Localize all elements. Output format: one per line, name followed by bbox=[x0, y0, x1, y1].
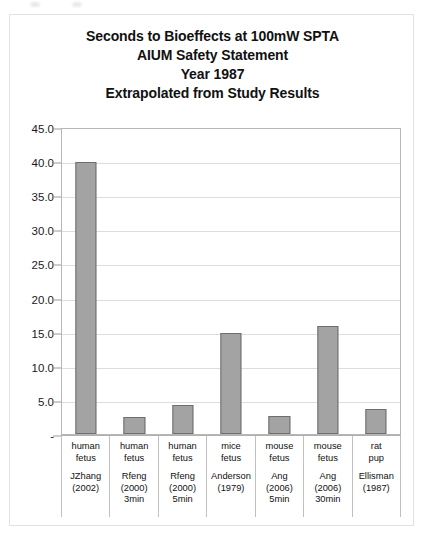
y-axis-tick-label: 5.0 bbox=[38, 396, 54, 408]
y-axis-tick-label: 35.0 bbox=[32, 191, 54, 203]
y-axis-tick-label: 10.0 bbox=[32, 362, 54, 374]
y-axis-tick-mark bbox=[53, 197, 61, 198]
y-axis-tick-mark bbox=[53, 401, 61, 402]
bar-slot bbox=[352, 129, 400, 434]
chart-container: Seconds to Bioeffects at 100mW SPTA AIUM… bbox=[9, 14, 414, 526]
x-axis-category-cell: mice fetusAnderson (1979) bbox=[207, 436, 255, 517]
category-source: Ang (2006) 5min bbox=[256, 471, 303, 506]
chart-title-line-2: AIUM Safety Statement bbox=[10, 46, 415, 65]
category-name: mouse fetus bbox=[304, 441, 351, 464]
x-axis-category-table: human fetusJZhang (2002)human fetusRfeng… bbox=[61, 435, 401, 517]
category-source: Rfeng (2000) 5min bbox=[159, 471, 206, 506]
category-name: human fetus bbox=[110, 441, 157, 464]
x-axis-category-cell: rat pupEllisman (1987) bbox=[353, 436, 401, 517]
y-axis-tick-label: 20.0 bbox=[32, 294, 54, 306]
bar-slot bbox=[303, 129, 351, 434]
chart-title: Seconds to Bioeffects at 100mW SPTA AIUM… bbox=[10, 27, 415, 103]
x-axis-category-cell: human fetusRfeng (2000) 5min bbox=[159, 436, 207, 517]
y-axis-tick-mark bbox=[53, 367, 61, 368]
category-source: Anderson (1979) bbox=[207, 471, 254, 494]
y-axis-tick-mark bbox=[53, 436, 61, 437]
y-axis-tick-label: 15.0 bbox=[32, 328, 54, 340]
y-axis-tick-mark bbox=[53, 265, 61, 266]
x-axis-category-cell: mouse fetusAng (2006) 5min bbox=[256, 436, 304, 517]
bar-slot bbox=[159, 129, 207, 434]
bar-slot bbox=[207, 129, 255, 434]
category-source: Rfeng (2000) 3min bbox=[110, 471, 157, 506]
category-source: JZhang (2002) bbox=[62, 471, 109, 494]
y-axis-tick-mark bbox=[53, 231, 61, 232]
category-name: mouse fetus bbox=[256, 441, 303, 464]
y-axis: 45.040.035.030.025.020.015.010.05.0- bbox=[10, 128, 57, 437]
x-axis-category-cell: human fetusJZhang (2002) bbox=[61, 436, 110, 517]
category-name: rat pup bbox=[353, 441, 400, 464]
y-axis-tick-label: 40.0 bbox=[32, 157, 54, 169]
bar[interactable] bbox=[124, 417, 145, 434]
bar-series bbox=[62, 129, 400, 434]
bar-slot bbox=[62, 129, 110, 434]
bar-slot bbox=[110, 129, 158, 434]
bar[interactable] bbox=[365, 409, 386, 434]
y-axis-tick-mark bbox=[53, 333, 61, 334]
x-axis-category-cell: human fetusRfeng (2000) 3min bbox=[110, 436, 158, 517]
chart-title-line-4: Extrapolated from Study Results bbox=[10, 84, 415, 103]
bar[interactable] bbox=[172, 405, 193, 434]
y-axis-tick-label: 30.0 bbox=[32, 225, 54, 237]
y-axis-tick-mark bbox=[53, 299, 61, 300]
chart-title-line-3: Year 1987 bbox=[10, 65, 415, 84]
x-axis-category-cell: mouse fetusAng (2006) 30min bbox=[304, 436, 352, 517]
bar[interactable] bbox=[220, 333, 241, 434]
category-name: human fetus bbox=[62, 441, 109, 464]
chart-title-line-1: Seconds to Bioeffects at 100mW SPTA bbox=[10, 27, 415, 46]
y-axis-tick-mark bbox=[53, 129, 61, 130]
y-axis-tick-label: 25.0 bbox=[32, 259, 54, 271]
category-source: Ellisman (1987) bbox=[353, 471, 400, 494]
category-source: Ang (2006) 30min bbox=[304, 471, 351, 506]
category-name: human fetus bbox=[159, 441, 206, 464]
bar[interactable] bbox=[317, 326, 338, 434]
plot-area bbox=[61, 128, 401, 435]
category-name: mice fetus bbox=[207, 441, 254, 464]
bar[interactable] bbox=[269, 416, 290, 434]
scan-artifact bbox=[0, 0, 423, 13]
y-axis-tick-mark bbox=[53, 163, 61, 164]
bar[interactable] bbox=[76, 162, 97, 434]
bar-slot bbox=[255, 129, 303, 434]
y-axis-tick-label: 45.0 bbox=[32, 123, 54, 135]
